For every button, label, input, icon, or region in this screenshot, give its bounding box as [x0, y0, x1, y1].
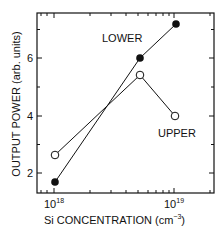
y-tick-label-6: 6: [27, 52, 33, 64]
y-ticks: [37, 30, 214, 174]
x-axis-title: Si CONCENTRATION (cm−3): [44, 213, 185, 226]
y-tick-label-4: 4: [27, 110, 33, 122]
chart: 2 4 6 1018 1019 Si CONCENTRATION (cm−3) …: [0, 0, 223, 240]
annotation-lower: LOWER: [102, 32, 142, 44]
x-tick-label-1e18: 1018: [44, 197, 64, 210]
series-upper-line: [55, 75, 175, 155]
annotation-upper: UPPER: [158, 127, 196, 139]
x-tick-label-1e19: 1019: [164, 197, 184, 210]
series-upper-markers: [51, 71, 179, 159]
y-axis-title: OUTPUT POWER (arb. units): [10, 31, 22, 176]
series-lower-line: [55, 24, 176, 182]
series-lower-markers: [51, 20, 180, 186]
y-tick-label-2: 2: [27, 167, 33, 179]
